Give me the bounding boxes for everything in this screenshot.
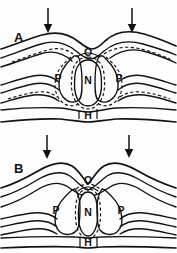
panel-a-region-n: N xyxy=(84,74,92,86)
panel-a-region-p-right: P xyxy=(115,72,122,84)
panel-b-region-h: H xyxy=(84,236,92,248)
panel-b-region-n: N xyxy=(84,206,92,218)
panel-b-region-o: O xyxy=(84,174,92,186)
panel-b-region-p-left: P xyxy=(52,204,59,216)
panel-a-region-h: H xyxy=(84,109,92,121)
figure-canvas: A O P N P H xyxy=(0,0,177,253)
panel-b-label: B xyxy=(14,161,23,176)
panel-a-label: A xyxy=(14,30,24,45)
panel-a-region-p-left: P xyxy=(54,72,61,84)
panel-a-region-o: O xyxy=(84,46,92,58)
anatomical-figure: A O P N P H xyxy=(0,0,177,253)
panel-b-region-p-right: P xyxy=(117,204,124,216)
